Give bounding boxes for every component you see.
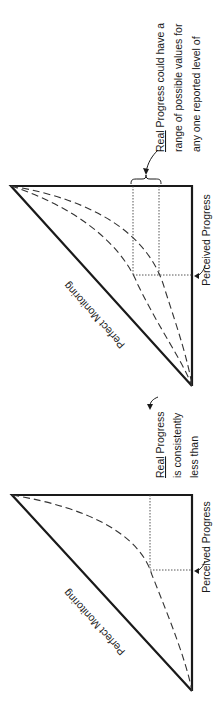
top-annotation-line-1: Progress could have a: [154, 23, 166, 131]
bottom-triangle-outline: [12, 495, 192, 691]
top-annotation: Real Progress could have a range of poss…: [154, 23, 202, 152]
top-annotation-line-3: any one reported level of: [190, 36, 202, 152]
bottom-axis-label: Perceived Progress: [200, 501, 212, 593]
top-range-brace-icon: [131, 175, 161, 184]
bottom-hypotenuse-label: Perfect Monitoring: [61, 587, 128, 658]
top-hypotenuse-label: Perfect Monitoring: [61, 280, 127, 351]
bottom-annotation: Real Progress is consistently less than: [154, 411, 200, 478]
top-perceived-arrowhead-icon: [194, 273, 199, 279]
bottom-annotation-line-2: is consistently: [171, 412, 183, 478]
top-diagram: Perfect Monitoring Perceived Progress Re…: [11, 23, 212, 386]
svg-text:Real Progress: Real Progress: [154, 411, 166, 478]
bottom-annotation-line-3: less than: [188, 436, 200, 478]
bottom-annotation-real: Real: [154, 456, 166, 478]
top-annotation-arrowhead-icon: [143, 168, 149, 175]
top-annotation-line-2: range of possible values for: [172, 23, 184, 152]
bottom-diagram: Perfect Monitoring Perceived Progress Re…: [12, 397, 212, 691]
monitoring-diagram: Perfect Monitoring Perceived Progress Re…: [0, 0, 222, 711]
top-triangle-outline: [11, 186, 192, 386]
bottom-annotation-arrowhead-icon: [147, 404, 153, 410]
top-axis-label: Perceived Progress: [200, 194, 212, 286]
bottom-perceived-arrowhead-icon: [194, 568, 199, 574]
top-annotation-arrow-icon: [146, 150, 158, 172]
bottom-annotation-line-1: Progress: [154, 411, 166, 456]
top-annotation-real: Real: [154, 130, 166, 152]
svg-text:Real Progress could have a: Real Progress could have a: [154, 23, 166, 152]
